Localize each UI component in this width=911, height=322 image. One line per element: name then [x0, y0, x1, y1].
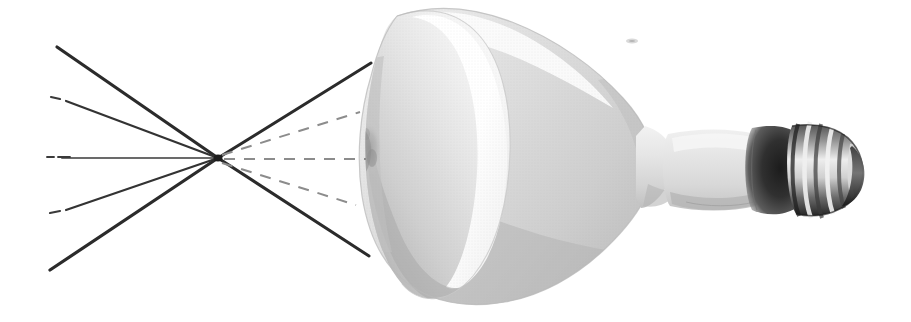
dust-speck	[626, 39, 638, 44]
focal-point	[214, 154, 223, 161]
figure-root: Reflector flood lamp with converging and…	[0, 0, 911, 322]
lamp-ray-diagram-illustration	[0, 0, 911, 322]
